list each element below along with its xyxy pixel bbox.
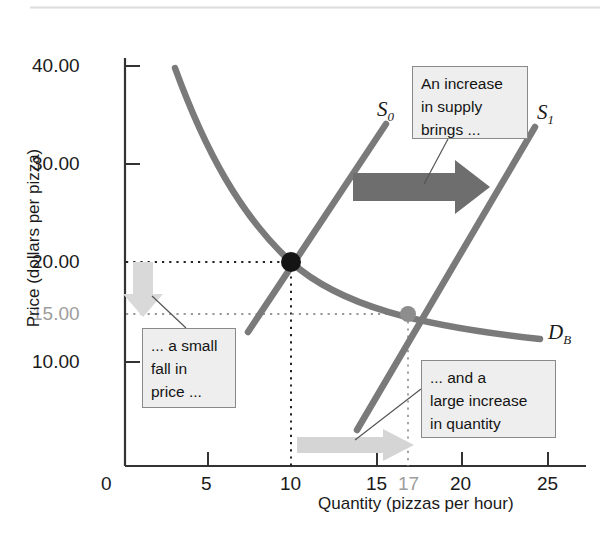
y-tick-label-10: 10.00 <box>32 351 80 373</box>
supply-curve-s1-label: S1 <box>537 100 554 128</box>
fall-callout-line-3: price ... <box>151 380 228 403</box>
x-tick-label-15: 15 <box>366 473 387 495</box>
price-fall-callout: ... a small fall in price ... <box>142 328 236 408</box>
s1-letter: S <box>537 100 548 124</box>
x-axis-title: Quantity (pizzas per hour) <box>318 494 514 514</box>
supply-curve-s0 <box>248 124 386 332</box>
supply-demand-figure: 40.00 30.00 20.00 15.00 10.00 0 5 10 15 … <box>0 0 613 543</box>
supply-callout-line-3: brings ... <box>421 118 520 141</box>
supply-shift-callout: An increase in supply brings ... <box>412 66 528 139</box>
supply-shift-arrow <box>353 160 490 214</box>
equilibrium-point-original <box>281 252 301 272</box>
x-tick-label-20: 20 <box>450 473 471 495</box>
s1-subscript: 1 <box>548 112 555 127</box>
demand-curve-db-label: DB <box>548 320 571 348</box>
x-tick-label-17: 17 <box>398 473 419 495</box>
price-fall-arrow <box>123 262 163 317</box>
qty-callout-line-2: large increase <box>430 389 548 412</box>
db-subscript: B <box>563 332 571 347</box>
quantity-increase-callout: ... and a large increase in quantity <box>421 360 556 438</box>
leader-line-fall <box>152 296 186 328</box>
qty-callout-line-3: in quantity <box>430 412 548 435</box>
fall-callout-line-1: ... a small <box>151 334 228 357</box>
supply-callout-line-1: An increase <box>421 72 520 95</box>
x-tick-label-0: 0 <box>101 473 112 495</box>
db-letter: D <box>548 320 563 344</box>
s0-subscript: 0 <box>388 109 395 124</box>
supply-curve-s0-label: S0 <box>377 97 394 125</box>
equilibrium-point-new <box>400 306 416 322</box>
y-tick-label-40: 40.00 <box>32 55 80 77</box>
y-axis-title: Price (dollars per pizza) <box>24 138 44 338</box>
qty-callout-line-1: ... and a <box>430 366 548 389</box>
s0-letter: S <box>377 97 388 121</box>
x-tick-label-5: 5 <box>201 473 212 495</box>
fall-callout-line-2: fall in <box>151 357 228 380</box>
supply-callout-line-2: in supply <box>421 95 520 118</box>
x-tick-label-10: 10 <box>280 473 301 495</box>
quantity-increase-arrow <box>297 429 414 461</box>
x-tick-label-25: 25 <box>537 473 558 495</box>
